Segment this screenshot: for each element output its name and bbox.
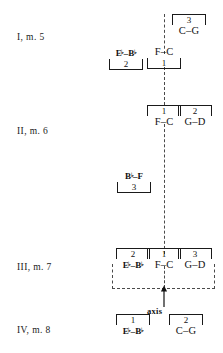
interval-group-bb-f-3: B♭–F 3 [111, 170, 157, 192]
axis-dashed-line-lower [164, 124, 165, 254]
group-pitch: B♭–F [111, 170, 157, 182]
group-pitch: F–C [141, 46, 187, 58]
interval-group-c-g-2-row4: 2 C–G [163, 315, 209, 337]
group-pitch: C–G [163, 325, 209, 337]
group-pitch: G–D [172, 259, 218, 271]
group-number: 3 [166, 15, 212, 25]
group-number: 2 [163, 315, 209, 325]
figure-canvas: I, m. 5 II, m. 6 III, m. 7 IV, m. 8 3 C–… [0, 0, 223, 353]
row-label-movement-2: II, m. 6 [17, 126, 48, 136]
interval-group-c-g-3: 3 C–G [166, 15, 212, 37]
interval-group-g-d-2-row2: 2 G–D [172, 106, 218, 128]
group-number: 2 [172, 106, 218, 116]
axis-arrow-icon [159, 285, 169, 307]
group-number: 3 [172, 249, 218, 259]
interval-group-f-c-1-row1: F–C 1 [141, 46, 187, 68]
group-number: 3 [111, 182, 157, 192]
group-number: 1 [141, 58, 187, 68]
axis-dashed-line-mid [164, 67, 165, 105]
group-number: 1 [110, 315, 156, 325]
interval-group-eb-bb-1-row4: 1 E♭–B♭ [110, 315, 156, 337]
row-label-movement-4: IV, m. 8 [17, 325, 51, 335]
row-label-movement-1: I, m. 5 [17, 32, 45, 42]
group-pitch: G–D [172, 116, 218, 128]
row-label-movement-3: III, m. 7 [17, 262, 52, 272]
group-pitch: E♭–B♭ [110, 325, 156, 337]
interval-group-g-d-3-row3: 3 G–D [172, 249, 218, 271]
group-pitch: C–G [166, 25, 212, 37]
